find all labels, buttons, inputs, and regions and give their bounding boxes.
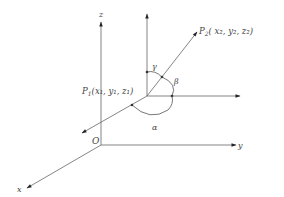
beta-label: β [173, 77, 179, 86]
y-label: y [237, 141, 243, 150]
z-label: z [98, 10, 104, 19]
x-label: x [17, 185, 22, 194]
alpha-arc [132, 96, 173, 115]
gamma-label: γ [152, 62, 157, 71]
angle-arcs [131, 71, 174, 115]
p1-x-axis [82, 96, 147, 133]
origin-label: O [92, 136, 100, 146]
p2-label: P2( x₂, y₂, z₂) [198, 26, 253, 37]
alpha-label: α [152, 123, 158, 132]
p1-label: P1(x₁, y₁, z₁) [81, 86, 133, 97]
direction-angle-diagram: z y x O P1(x₁, y₁, z₁) P2( x₂, y₂, z₂) γ… [0, 0, 284, 197]
beta-arc [162, 77, 174, 96]
x-axis [27, 145, 101, 188]
gamma-arc [147, 72, 162, 77]
